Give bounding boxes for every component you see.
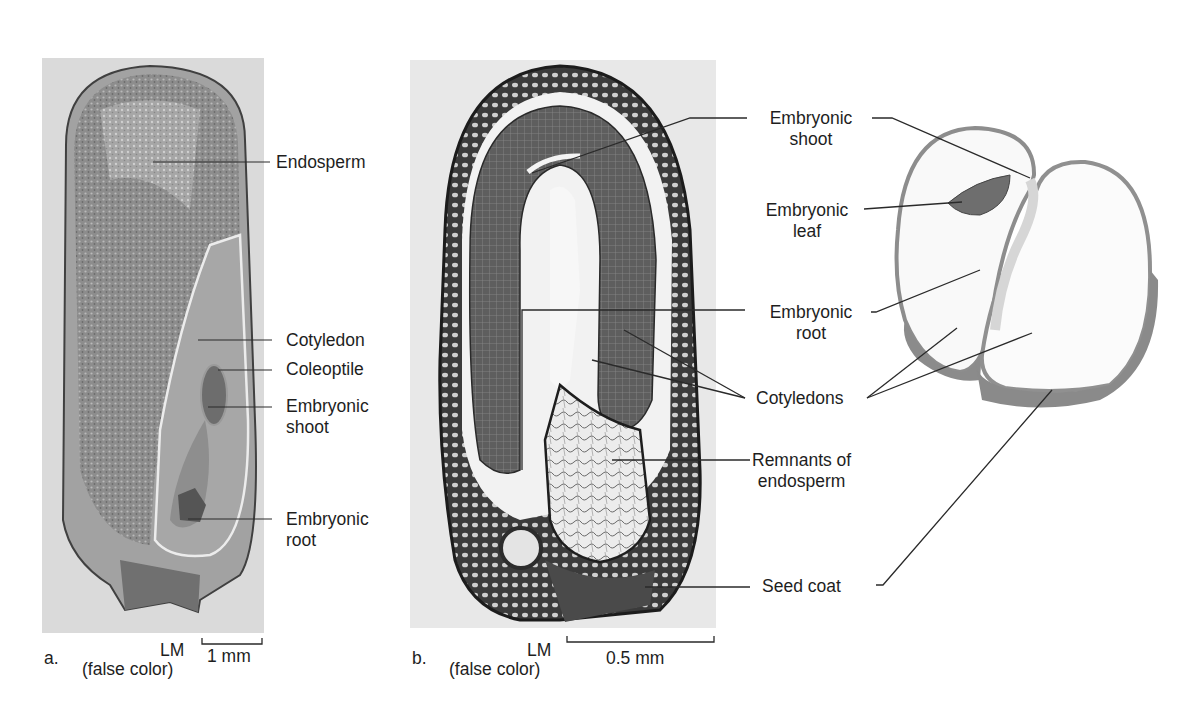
label-text: root	[752, 323, 870, 344]
label-embryonic-shoot-b: Embryonic shoot	[752, 108, 870, 150]
label-text: shoot	[286, 417, 369, 438]
label-text: Embryonic	[752, 302, 870, 323]
panel-b-scale-bar	[567, 636, 714, 642]
panel-a-lm: LM	[160, 640, 184, 661]
label-endosperm: Endosperm	[276, 152, 366, 173]
panel-a-letter: a.	[44, 648, 59, 669]
label-text: Embryonic	[286, 396, 369, 417]
label-embryonic-root-a: Embryonic root	[286, 509, 369, 551]
label-text: leaf	[752, 221, 862, 242]
panel-a-scale-label: 1 mm	[207, 646, 251, 667]
label-coleoptile: Coleoptile	[286, 359, 364, 380]
panel-b-false-color: (false color)	[449, 659, 540, 680]
bean-illustration	[897, 128, 1159, 408]
panel-b-letter: b.	[412, 648, 427, 669]
label-remnants-endosperm: Remnants of endosperm	[752, 450, 851, 492]
label-text: Embryonic	[286, 509, 369, 530]
panel-a-scale-bar	[202, 638, 262, 644]
label-embryonic-shoot-a: Embryonic shoot	[286, 396, 369, 438]
label-text: Remnants of	[752, 450, 851, 471]
label-seed-coat: Seed coat	[762, 576, 841, 597]
label-text: root	[286, 530, 369, 551]
label-text: shoot	[752, 129, 870, 150]
label-text: Embryonic	[752, 200, 862, 221]
label-text: Embryonic	[752, 108, 870, 129]
panel-a-false-color: (false color)	[82, 659, 173, 680]
label-embryonic-root-b: Embryonic root	[752, 302, 870, 344]
label-cotyledon: Cotyledon	[286, 330, 365, 351]
label-text: endosperm	[752, 471, 851, 492]
label-embryonic-leaf: Embryonic leaf	[752, 200, 862, 242]
panel-a-micrograph	[0, 0, 1179, 717]
panel-b-lm: LM	[527, 640, 551, 661]
panel-b-scale-label: 0.5 mm	[606, 648, 664, 669]
label-cotyledons: Cotyledons	[756, 388, 844, 409]
